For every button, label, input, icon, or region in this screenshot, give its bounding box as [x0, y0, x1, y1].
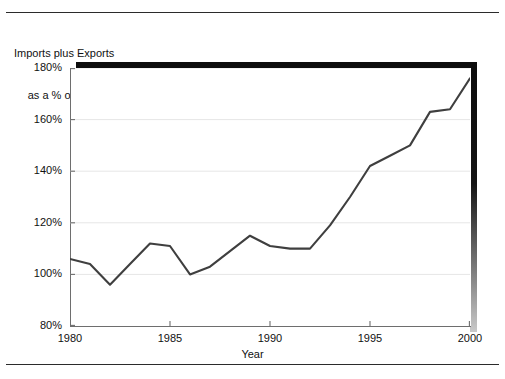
y-axis-tick-label: 160% — [4, 113, 62, 125]
chart-title-line-1: Imports plus Exports — [14, 46, 114, 60]
data-series-line — [70, 78, 470, 284]
y-axis-tick-label: 140% — [4, 164, 62, 176]
plot-canvas — [70, 68, 470, 326]
y-axis-tick-label: 80% — [4, 319, 62, 331]
y-axis-tick-label: 100% — [4, 267, 62, 279]
y-tick-marks — [70, 69, 75, 326]
x-axis-tick-label: 1995 — [340, 332, 400, 344]
top-divider-rule — [6, 12, 499, 13]
x-tick-marks — [70, 321, 469, 326]
gridlines — [70, 68, 470, 274]
y-axis-tick-label: 180% — [4, 61, 62, 73]
x-axis-title: Year — [0, 348, 505, 360]
bottom-divider-rule — [6, 364, 499, 365]
x-axis-tick-label: 1985 — [140, 332, 200, 344]
chart-figure: Imports plus Exports as a % of GDP 80%10… — [0, 0, 505, 379]
x-axis-tick-label: 1990 — [240, 332, 300, 344]
x-axis-tick-label: 1980 — [40, 332, 100, 344]
x-axis-tick-label: 2000 — [440, 332, 500, 344]
y-axis-tick-label: 120% — [4, 216, 62, 228]
plot-shadow-right — [470, 62, 477, 332]
